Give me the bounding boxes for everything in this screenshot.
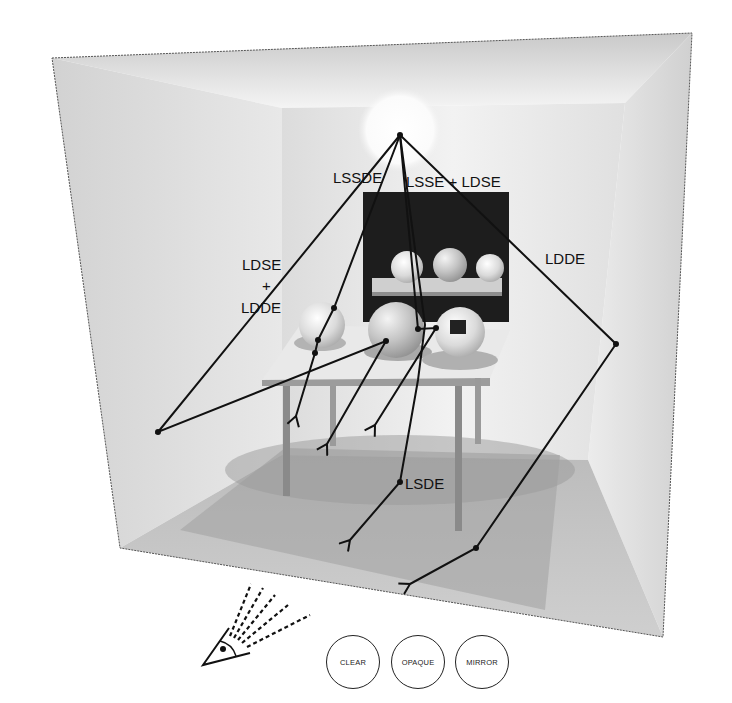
light-source-glow <box>358 88 442 172</box>
label-lsse-ldse: LSSE + LDSE <box>406 173 501 190</box>
label-ldse-line3: LDDE <box>241 299 281 316</box>
opaque-button[interactable]: OPAQUE <box>391 635 445 689</box>
label-ldde: LDDE <box>545 250 585 267</box>
label-lsde: LSDE <box>405 475 444 492</box>
label-lssde: LSSDE <box>333 169 382 186</box>
mirror-button[interactable]: MIRROR <box>455 635 509 689</box>
light-path-diagram: LSSDE LSSE + LDSE LDSE + LDDE LDDE LSDE <box>0 0 732 703</box>
clear-button[interactable]: CLEAR <box>326 635 380 689</box>
glass-sphere <box>299 302 345 348</box>
label-ldse-line2: + <box>262 277 271 294</box>
table-shadow <box>225 435 575 505</box>
label-ldse-line1: LDSE <box>242 256 281 273</box>
eye-with-view-rays-icon <box>203 584 310 665</box>
